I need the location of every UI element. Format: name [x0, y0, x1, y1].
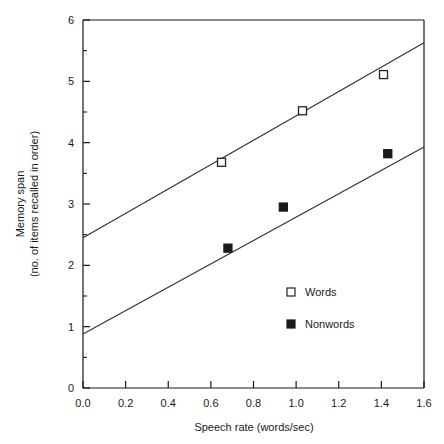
data-point-words	[218, 158, 226, 166]
legend-marker-nonwords-icon	[287, 320, 295, 328]
x-tick-label: 1.2	[331, 397, 346, 409]
legend-label-nonwords: Nonwords	[305, 318, 355, 330]
y-tick-label: 1	[68, 321, 74, 333]
chart-container: 0123456 0.00.20.40.60.81.01.21.41.6 Spee…	[0, 0, 444, 444]
legend-marker-words-icon	[287, 288, 295, 296]
x-tick-label: 0.8	[246, 397, 261, 409]
x-tick-label: 1.0	[288, 397, 303, 409]
y-tick-label: 6	[68, 14, 74, 26]
data-point-nonwords	[279, 203, 287, 211]
data-point-nonwords	[384, 150, 392, 158]
x-tick-label: 0.6	[203, 397, 218, 409]
scatter-plot: 0123456 0.00.20.40.60.81.01.21.41.6 Spee…	[0, 0, 444, 444]
x-tick-label: 1.6	[416, 397, 431, 409]
y-tick-label: 4	[68, 137, 74, 149]
x-axis-title: Speech rate (words/sec)	[194, 421, 313, 433]
data-point-nonwords	[224, 244, 232, 252]
x-tick-label: 0.0	[75, 397, 90, 409]
y-axis-title-line1: Memory span	[14, 171, 26, 238]
y-tick-label: 3	[68, 198, 74, 210]
legend-label-words: Words	[305, 286, 337, 298]
data-point-words	[380, 71, 388, 79]
x-tick-label: 1.4	[374, 397, 389, 409]
data-point-words	[299, 107, 307, 115]
y-tick-label: 2	[68, 259, 74, 271]
y-tick-label: 5	[68, 75, 74, 87]
y-tick-label: 0	[68, 382, 74, 394]
x-tick-label: 0.2	[118, 397, 133, 409]
x-axis-tick-labels: 0.00.20.40.60.81.01.21.41.6	[75, 397, 431, 409]
chart-background	[0, 0, 444, 444]
x-tick-label: 0.4	[161, 397, 176, 409]
y-axis-title-line2: (no. of items recalled in order)	[28, 131, 40, 277]
